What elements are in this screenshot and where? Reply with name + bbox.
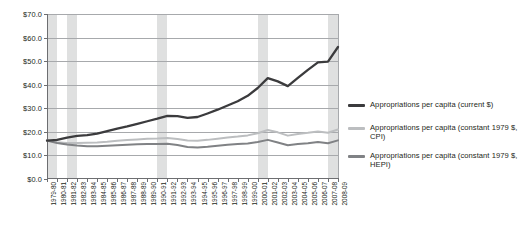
x-axis-tick-label: 1982-83: [80, 182, 87, 205]
x-axis-tick-label: 2000-01: [261, 182, 268, 205]
y-axis-tick-label: $10.0: [23, 151, 42, 160]
y-axis-tick-label: $70.0: [23, 10, 42, 19]
x-axis-tick-label: 1989-90: [150, 182, 157, 205]
chart-root: $0.0$10.0$20.0$30.0$40.0$50.0$60.0$70.0 …: [0, 0, 529, 239]
x-axis-tick-label: 1992-93: [180, 182, 187, 205]
x-axis-tick-label: 1996-97: [221, 182, 228, 205]
chart-legend: Appropriations per capita (current $)App…: [348, 100, 529, 179]
y-axis-tick-label: $20.0: [23, 127, 42, 136]
y-axis-labels: $0.0$10.0$20.0$30.0$40.0$50.0$60.0$70.0: [0, 0, 45, 195]
x-axis-tick-label: 1998-99: [241, 182, 248, 205]
x-axis-tick-label: 2008-09: [341, 182, 348, 205]
x-axis-tick-label: 2007-08: [331, 182, 338, 205]
y-axis-tick-label: $0.0: [27, 175, 42, 184]
x-axis-tick-label: 1991-92: [170, 182, 177, 205]
legend-item-label: Appropriations per capita (constant 1979…: [370, 123, 529, 142]
x-axis-tick-label: 2002-03: [281, 182, 288, 205]
x-axis-tick-label: 1988-89: [140, 182, 147, 205]
plot-area: [47, 14, 339, 179]
legend-item[interactable]: Appropriations per capita (constant 1979…: [348, 151, 529, 170]
x-axis-tick-label: 1984-85: [100, 182, 107, 205]
plot-area-wrapper: $0.0$10.0$20.0$30.0$40.0$50.0$60.0$70.0 …: [0, 0, 345, 239]
y-axis-tick-label: $40.0: [23, 80, 42, 89]
x-axis-tick-label: 1986-87: [120, 182, 127, 205]
legend-color-swatch: [348, 127, 365, 130]
x-axis-tick-label: 1979-80: [50, 182, 57, 205]
x-axis-tick-label: 1994-95: [201, 182, 208, 205]
x-axis-tick-label: 1997-98: [231, 182, 238, 205]
y-axis-tick-label: $50.0: [23, 57, 42, 66]
legend-item[interactable]: Appropriations per capita (current $): [348, 100, 529, 110]
x-axis-tick-label: 1980-81: [60, 182, 67, 205]
x-axis-tick-label: 1981-82: [70, 182, 77, 205]
x-axis-labels: 1979-801980-811981-821982-831983-841984-…: [47, 182, 339, 238]
x-axis-tick-label: 1985-86: [110, 182, 117, 205]
x-axis-tick-label: 2006-07: [321, 182, 328, 205]
data-series-lines: [47, 14, 339, 179]
legend-item-label: Appropriations per capita (current $): [370, 100, 493, 110]
legend-color-swatch: [348, 104, 365, 107]
series-line: [47, 47, 338, 141]
legend-color-swatch: [348, 155, 365, 158]
x-axis-tick-label: 1995-96: [211, 182, 218, 205]
x-axis-tick-label: 1987-88: [130, 182, 137, 205]
legend-item[interactable]: Appropriations per capita (constant 1979…: [348, 123, 529, 142]
x-axis-tick-label: 2005-06: [311, 182, 318, 205]
y-axis-tick-label: $30.0: [23, 104, 42, 113]
x-axis-tick-label: 1990-91: [160, 182, 167, 205]
y-axis-tick-label: $60.0: [23, 33, 42, 42]
x-axis-tick-label: 2001-02: [271, 182, 278, 205]
legend-item-label: Appropriations per capita (constant 1979…: [370, 151, 529, 170]
series-line: [47, 130, 338, 143]
x-axis-tick-label: 2003-04: [291, 182, 298, 205]
x-axis-tick-label: 2004-05: [301, 182, 308, 205]
x-axis-tick-label: 1999-00: [251, 182, 258, 205]
x-axis-tick-label: 1993-94: [190, 182, 197, 205]
x-axis-tick-label: 1983-84: [90, 182, 97, 205]
